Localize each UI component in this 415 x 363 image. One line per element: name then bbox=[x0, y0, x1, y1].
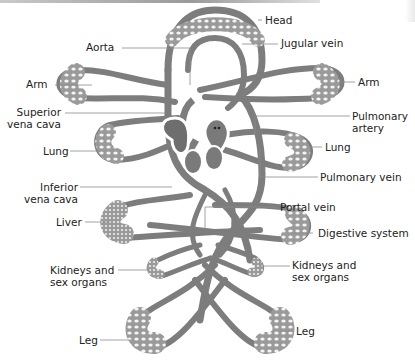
label-liver: Liver bbox=[56, 216, 82, 228]
label-lung-left: Lung bbox=[43, 145, 69, 157]
vessels bbox=[59, 10, 341, 348]
label-leg-right: Leg bbox=[296, 325, 315, 337]
label-kidneys-right-line2: sex organs bbox=[292, 271, 349, 283]
label-superior-vena-cava-line2: vena cava bbox=[7, 118, 61, 130]
label-superior-vena-cava: Superior vena cava bbox=[2, 106, 61, 130]
label-superior-vena-cava-line1: Superior bbox=[17, 106, 61, 118]
label-portal-vein: Portal vein bbox=[280, 201, 336, 213]
heart bbox=[163, 100, 229, 174]
label-inferior-vena-cava-line1: Inferior bbox=[40, 181, 78, 193]
label-inferior-vena-cava: Inferior vena cava bbox=[2, 181, 78, 205]
label-kidneys-left-line2: sex organs bbox=[50, 276, 107, 288]
label-kidneys-right: Kidneys and sex organs bbox=[292, 259, 356, 283]
label-arm-right: Arm bbox=[358, 76, 380, 88]
label-pulmonary-vein: Pulmonary vein bbox=[320, 171, 402, 183]
label-head: Head bbox=[265, 14, 292, 26]
heart-ventricle-right bbox=[205, 146, 223, 170]
label-lung-right: Lung bbox=[325, 141, 351, 153]
label-kidneys-right-line1: Kidneys and bbox=[292, 259, 356, 271]
heart-ventricle-left bbox=[184, 150, 202, 174]
label-jugular-vein: Jugular vein bbox=[281, 37, 343, 49]
label-leg-left: Leg bbox=[79, 334, 98, 346]
label-kidneys-left: Kidneys and sex organs bbox=[50, 264, 114, 288]
label-pulmonary-artery-line2: artery bbox=[352, 122, 384, 134]
label-kidneys-left-line1: Kidneys and bbox=[50, 264, 114, 276]
label-digestive-system: Digestive system bbox=[318, 227, 409, 239]
label-pulmonary-artery-line1: Pulmonary bbox=[352, 110, 408, 122]
label-arm-left: Arm bbox=[26, 78, 48, 90]
label-inferior-vena-cava-line2: vena cava bbox=[24, 193, 78, 205]
label-pulmonary-artery: Pulmonary artery bbox=[352, 110, 408, 134]
label-aorta: Aorta bbox=[86, 41, 114, 53]
